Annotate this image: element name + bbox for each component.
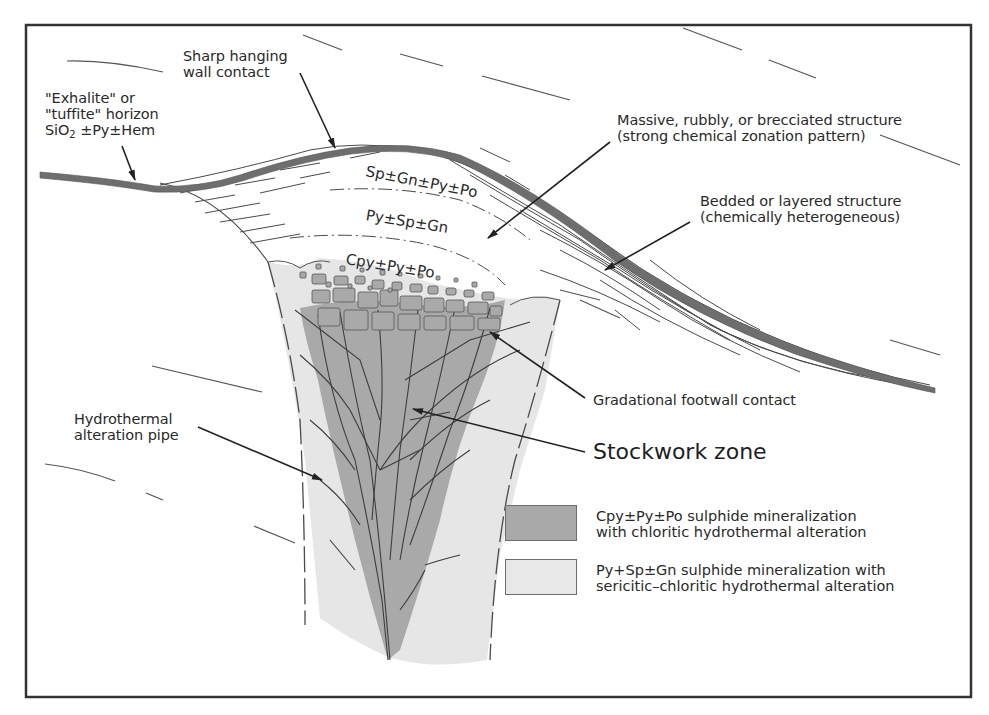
massive-structure-label: Massive, rubbly, or brecciated structure… (617, 112, 902, 144)
bedded-leader (605, 222, 690, 270)
legend-sericitic-line-2: sericitic–chloritic hydrothermal alterat… (596, 578, 895, 594)
bedded-line-2: (chemically heterogeneous) (700, 209, 901, 225)
massive-line-1: Massive, rubbly, or brecciated structure (617, 112, 902, 128)
hanging-wall-line-1: Sharp hanging (183, 48, 288, 64)
gradational-contact-label: Gradational footwall contact (593, 392, 796, 408)
exhalite-line-2: "tuffite" horizon (45, 106, 159, 122)
hanging-wall-leader (300, 73, 335, 148)
pipe-line-1: Hydrothermal (74, 411, 179, 427)
legend-item-sericitic: Py+Sp±Gn sulphide mineralization with se… (596, 562, 895, 594)
massive-leader (488, 142, 610, 238)
legend-swatch-sericitic (505, 559, 577, 595)
legend-sericitic-line-1: Py+Sp±Gn sulphide mineralization with (596, 562, 895, 578)
hanging-wall-label: Sharp hanging wall contact (183, 48, 288, 80)
massive-line-2: (strong chemical zonation pattern) (617, 128, 902, 144)
exhalite-formula: SiO2 ±Py±Hem (45, 122, 159, 143)
stockwork-zone-label: Stockwork zone (593, 440, 767, 464)
mound-left-boundary (160, 183, 268, 262)
bedded-structure-label: Bedded or layered structure (chemically … (700, 193, 901, 225)
legend-chloritic-line-2: with chloritic hydrothermal alteration (596, 524, 867, 540)
bedded-line-1: Bedded or layered structure (700, 193, 901, 209)
legend-swatch-chloritic (505, 505, 577, 541)
vms-deposit-diagram: Sharp hanging wall contact "Exhalite" or… (0, 0, 989, 715)
exhalite-leader (122, 146, 135, 180)
pipe-line-2: alteration pipe (74, 427, 179, 443)
exhalite-label: "Exhalite" or "tuffite" horizon SiO2 ±Py… (45, 90, 159, 143)
alteration-pipe-label: Hydrothermal alteration pipe (74, 411, 179, 443)
formula-suffix: ±Py±Hem (76, 122, 155, 138)
hanging-wall-line-2: wall contact (183, 64, 288, 80)
exhalite-line-1: "Exhalite" or (45, 90, 159, 106)
formula-prefix: SiO (45, 122, 69, 138)
legend-chloritic-line-1: Cpy±Py±Po sulphide mineralization (596, 508, 867, 524)
legend-item-chloritic: Cpy±Py±Po sulphide mineralization with c… (596, 508, 867, 540)
